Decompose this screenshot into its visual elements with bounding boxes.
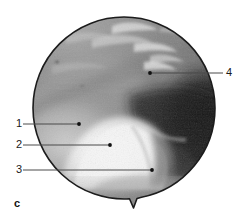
callout-label-4: 4 (226, 67, 232, 78)
leader-dot-4 (148, 71, 152, 75)
scope-image-content (22, 4, 236, 218)
callout-label-3: 3 (16, 164, 22, 175)
leader-dot-1 (77, 122, 81, 126)
leader-dot-3 (150, 168, 154, 172)
leader-dot-2 (108, 143, 112, 147)
figure-panel: 1 2 3 4 c (0, 0, 247, 220)
callout-label-2: 2 (16, 139, 22, 150)
arthroscopy-image (0, 0, 247, 220)
panel-letter: c (14, 198, 20, 209)
image-grain (30, 14, 220, 210)
callout-label-1: 1 (16, 118, 22, 129)
